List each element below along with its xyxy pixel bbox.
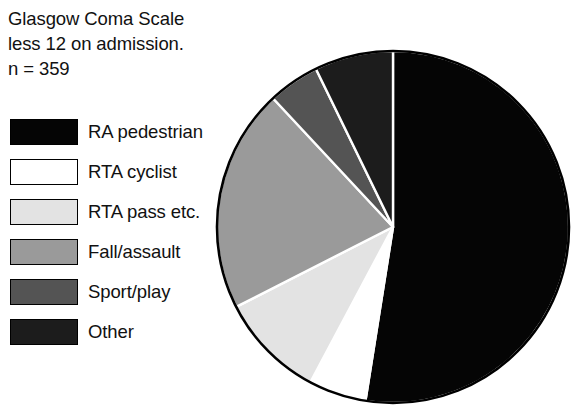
legend-item-rta-cyclist: RTA cyclist — [10, 152, 220, 192]
chart-sample-size: n = 359 — [8, 56, 223, 81]
pie-chart-canvas — [214, 48, 572, 407]
legend-swatch-icon — [10, 239, 78, 265]
chart-title-line-2: less 12 on admission. — [8, 31, 223, 56]
legend-item-ra-pedestrian: RA pedestrian — [10, 112, 220, 152]
legend-label: RTA cyclist — [88, 162, 177, 182]
chart-legend: RA pedestrian RTA cyclist RTA pass etc. … — [10, 112, 220, 352]
pie-chart-svg — [214, 48, 572, 407]
legend-label: RTA pass etc. — [88, 202, 200, 222]
legend-item-rta-pass-etc: RTA pass etc. — [10, 192, 220, 232]
legend-swatch-icon — [10, 119, 78, 145]
pie-chart-figure: Glasgow Coma Scale less 12 on admission.… — [0, 0, 576, 407]
chart-title-block: Glasgow Coma Scale less 12 on admission.… — [8, 6, 223, 81]
legend-label: RA pedestrian — [88, 122, 203, 142]
pie-slice-ra-pedestrian — [365, 51, 569, 403]
chart-title-line-1: Glasgow Coma Scale — [8, 6, 223, 31]
legend-swatch-icon — [10, 319, 78, 345]
legend-swatch-icon — [10, 159, 78, 185]
legend-swatch-icon — [10, 279, 78, 305]
legend-label: Fall/assault — [88, 242, 180, 262]
pie-slice-group — [217, 51, 569, 403]
legend-item-other: Other — [10, 312, 220, 352]
legend-label: Sport/play — [88, 282, 170, 302]
legend-item-sport-play: Sport/play — [10, 272, 220, 312]
legend-label: Other — [88, 322, 134, 342]
legend-item-fall-assault: Fall/assault — [10, 232, 220, 272]
legend-swatch-icon — [10, 199, 78, 225]
